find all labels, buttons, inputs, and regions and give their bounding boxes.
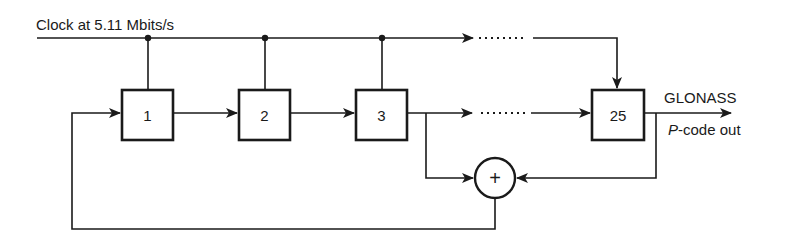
- register-25-label: 25: [610, 107, 627, 124]
- register-3: 3: [356, 90, 407, 140]
- register-25: 25: [592, 90, 644, 140]
- clock-line: [37, 35, 617, 90]
- xor-gate: +: [475, 158, 515, 198]
- register-2: 2: [239, 90, 290, 140]
- output-label-glonass: GLONASS: [664, 89, 737, 106]
- register-1-label: 1: [143, 107, 151, 124]
- register-1: 1: [122, 90, 173, 140]
- output-label-pcode: P-code out: [668, 121, 741, 138]
- register-2-label: 2: [260, 107, 268, 124]
- xor-symbol: +: [489, 167, 501, 189]
- glonass-p-code-generator-diagram: Clock at 5.11 Mbits/s 1 2 3 25: [0, 0, 802, 246]
- register-3-label: 3: [377, 107, 385, 124]
- clock-label: Clock at 5.11 Mbits/s: [36, 16, 174, 33]
